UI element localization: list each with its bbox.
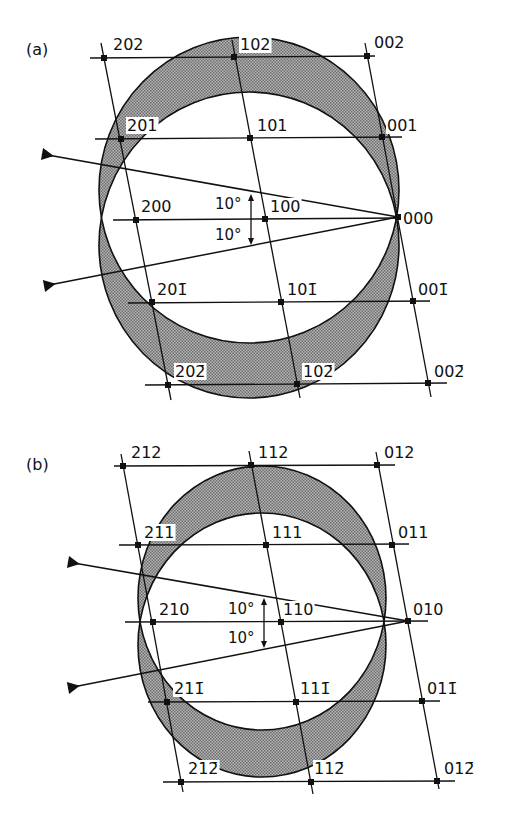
lattice-point-label: 201: [127, 116, 158, 135]
lattice-point-label: 001: [387, 116, 418, 135]
lattice-point: [165, 382, 171, 388]
lattice-point: [247, 135, 253, 141]
lattice-point: [178, 779, 184, 785]
lattice-point: [419, 698, 425, 704]
lattice-point: [389, 542, 395, 548]
lattice-point: [118, 136, 124, 142]
beam-arrowhead-icon: [67, 682, 80, 694]
diffraction-figure: 10°10°202102002201101001200100000201̄101…: [0, 0, 505, 820]
lattice-point-label: 112̄: [314, 759, 345, 778]
panel-b: 10°10°212112012211111011210110010211̄111…: [26, 443, 476, 794]
angle-label: 10°: [215, 226, 242, 244]
beam-arrowhead-icon: [43, 280, 56, 292]
lattice-point: [150, 619, 156, 625]
lattice-point: [395, 214, 401, 220]
lattice-point: [308, 779, 314, 785]
lattice-row-line: [114, 465, 395, 466]
lattice-point-label: 202: [113, 35, 144, 54]
lattice-point-label: 211: [144, 523, 175, 542]
beam-arrowhead-icon: [67, 556, 80, 568]
lattice-point: [379, 134, 385, 140]
lattice-point: [425, 380, 431, 386]
lattice-point: [410, 298, 416, 304]
lattice-point: [262, 216, 268, 222]
lattice-point-label: 101̄: [287, 280, 318, 299]
lattice-point: [164, 699, 170, 705]
panel-label: (b): [26, 455, 49, 474]
lattice-point-label: 111̄: [300, 679, 331, 698]
lattice-point-label: 002: [374, 33, 405, 52]
lattice-point: [374, 462, 380, 468]
lattice-point: [294, 381, 300, 387]
lattice-point-label: 102: [240, 35, 271, 54]
lattice-point-label: 101: [257, 116, 288, 135]
lattice-point-label: 000: [403, 209, 434, 228]
lattice-point-label: 211̄: [174, 679, 205, 698]
lattice-point-label: 112: [258, 443, 289, 462]
lattice-point: [231, 54, 237, 60]
lattice-point-label: 111: [272, 523, 303, 542]
angle-label: 10°: [228, 629, 255, 647]
panel-a: 10°10°202102002201101001200100000201̄101…: [26, 33, 466, 400]
lattice-point: [149, 299, 155, 305]
lattice-point-label: 011̄: [427, 679, 458, 698]
lattice-point: [278, 619, 284, 625]
lattice-point-label: 001̄: [418, 280, 449, 299]
lattice-point: [278, 299, 284, 305]
lattice-point: [405, 618, 411, 624]
lattice-point-label: 212: [131, 443, 162, 462]
lattice-point-label: 011: [398, 523, 429, 542]
lattice-point: [135, 542, 141, 548]
lattice-point-label: 201̄: [157, 280, 188, 299]
lattice-point-label: 202̄: [175, 362, 206, 381]
angle-label: 10°: [228, 600, 255, 618]
lattice-point-label: 102̄: [303, 362, 334, 381]
lattice-point-label: 012: [384, 443, 415, 462]
lattice-point-label: 200: [141, 197, 172, 216]
lattice-point: [434, 778, 440, 784]
lattice-point-label: 012̄: [444, 759, 475, 778]
lattice-point: [248, 462, 254, 468]
lattice-point-label: 010: [413, 600, 444, 619]
lattice-point-label: 002̄: [434, 362, 465, 381]
lattice-point-label: 100: [270, 197, 301, 216]
lattice-point-label: 110: [283, 600, 314, 619]
lattice-point: [120, 463, 126, 469]
lattice-point-label: 210: [159, 600, 190, 619]
panel-label: (a): [26, 40, 48, 59]
lattice-point: [263, 542, 269, 548]
lattice-point: [293, 699, 299, 705]
angle-label: 10°: [215, 195, 242, 213]
lattice-point: [133, 217, 139, 223]
beam-arrowhead-icon: [41, 148, 54, 160]
lattice-point: [101, 55, 107, 61]
lattice-point-label: 212̄: [188, 759, 219, 778]
lattice-point: [364, 53, 370, 59]
